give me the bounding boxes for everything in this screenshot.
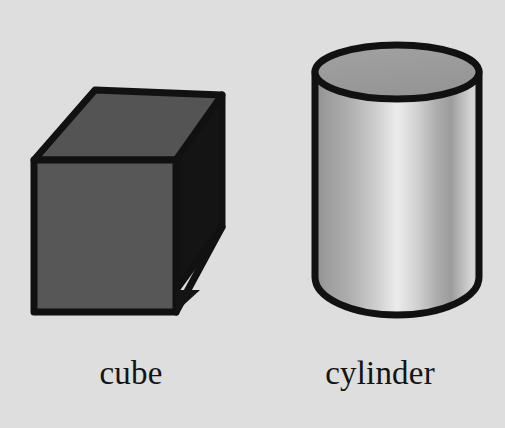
cylinder-label: cylinder [255,357,505,390]
cube-shape [34,90,222,312]
cube-front-face [34,160,176,312]
cylinder-top-face [315,45,479,99]
cylinder-body [315,72,479,315]
cube-label: cube [0,357,262,390]
cylinder-shape [315,45,479,315]
shapes-illustration-canvas: cube cylinder [0,0,505,428]
